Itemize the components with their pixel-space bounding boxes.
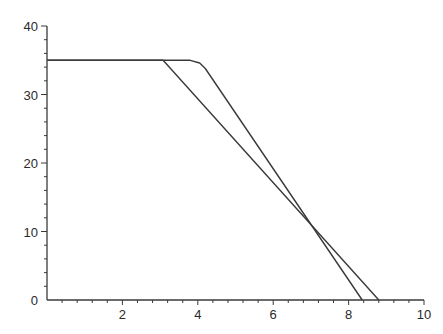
y-tick-label: 20 (24, 156, 38, 171)
chart-axes (41, 26, 424, 305)
series-line-piecewise-linear (47, 60, 379, 300)
x-tick-label: 6 (270, 307, 277, 322)
y-tick-label: 40 (24, 19, 38, 34)
x-tick-label: 8 (345, 307, 352, 322)
y-tick-label: 10 (24, 225, 38, 240)
y-tick-label: 0 (31, 293, 38, 308)
x-tick-label: 4 (194, 307, 201, 322)
tick-labels: 246810010203040 (24, 19, 432, 322)
x-tick-label: 10 (417, 307, 431, 322)
y-tick-label: 30 (24, 88, 38, 103)
x-tick-label: 2 (119, 307, 126, 322)
series-line-smooth-bend (47, 60, 362, 300)
chart-series (47, 60, 379, 300)
line-chart: 246810010203040 (0, 0, 443, 334)
